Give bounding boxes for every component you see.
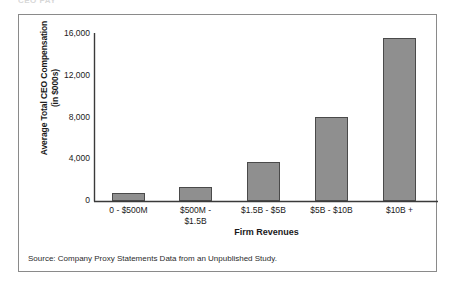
- y-tick-label: 8,000: [46, 113, 90, 122]
- bar-group-0: [95, 34, 162, 201]
- y-axis-tick-labels: 16,000 12,000 8,000 4,000 0: [42, 15, 90, 273]
- bar: [179, 187, 212, 201]
- figure-frame: Average Total CEO Compensation (in $000s…: [18, 14, 437, 272]
- bar-group-2: [230, 34, 297, 201]
- bar-group-3: [298, 34, 365, 201]
- bar: [112, 193, 145, 201]
- bar: [247, 162, 280, 201]
- x-axis-title: Firm Revenues: [95, 227, 438, 237]
- x-tick-label: $5B - $10B: [298, 205, 365, 216]
- bar: [383, 38, 416, 201]
- x-tick-label: $1.5B - $5B: [230, 205, 297, 216]
- bar-group-1: [162, 34, 229, 201]
- y-tick-label: 12,000: [46, 71, 90, 80]
- y-tick-label: 4,000: [46, 154, 90, 163]
- y-tick-label: 16,000: [46, 29, 90, 38]
- x-tick-label: $10B +: [366, 205, 433, 216]
- x-tick-label: $500M - $1.5B: [162, 205, 229, 226]
- bars-layer: [95, 34, 438, 201]
- source-note: Source: Company Proxy Statements Data fr…: [28, 254, 277, 263]
- y-tick-label: 0: [46, 196, 90, 205]
- bar-chart: Average Total CEO Compensation (in $000s…: [19, 15, 438, 273]
- bar-group-4: [366, 34, 433, 201]
- clipped-header-text: CEO PAY: [18, 0, 138, 6]
- bar: [315, 117, 348, 201]
- x-tick-label: 0 - $500M: [95, 205, 162, 216]
